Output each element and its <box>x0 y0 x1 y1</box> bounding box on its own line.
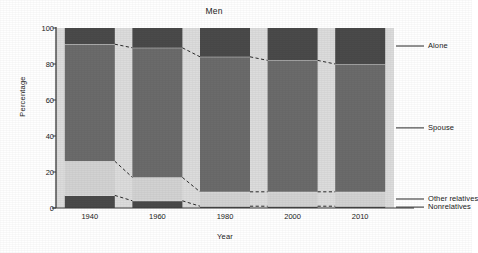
segment-alone <box>65 28 115 44</box>
bar-segment <box>335 192 385 206</box>
bar-segment <box>200 28 250 57</box>
bar-segment <box>132 48 182 178</box>
segment-spouse <box>200 57 250 192</box>
segment-spouse <box>132 48 182 178</box>
bar-segment <box>268 192 318 206</box>
bar-segment <box>268 60 318 191</box>
bar-segment <box>132 28 182 48</box>
segment-nonrelatives <box>132 201 182 208</box>
segment-alone <box>200 28 250 57</box>
segment-alone <box>268 28 318 60</box>
bar-segment <box>65 28 115 44</box>
bar-segment <box>132 201 182 208</box>
bar-segment <box>65 161 115 195</box>
segment-other-relatives <box>132 177 182 200</box>
segment-spouse <box>65 44 115 161</box>
bar-segment <box>200 192 250 206</box>
segment-other-relatives <box>335 192 385 206</box>
segment-spouse <box>268 60 318 191</box>
bar-segment <box>335 28 385 64</box>
segment-other-relatives <box>65 161 115 195</box>
segment-spouse <box>335 64 385 192</box>
bar-segment <box>335 64 385 192</box>
segment-alone <box>335 28 385 64</box>
bar-segment <box>65 44 115 161</box>
segment-other-relatives <box>200 192 250 206</box>
bar-segment <box>200 57 250 192</box>
bar-segment <box>132 177 182 200</box>
segment-alone <box>132 28 182 48</box>
bar-segment <box>65 195 115 208</box>
bar-segment <box>268 28 318 60</box>
segment-nonrelatives <box>65 195 115 208</box>
segment-other-relatives <box>268 192 318 206</box>
